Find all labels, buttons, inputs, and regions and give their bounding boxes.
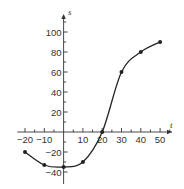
x-tick-label: 40 <box>136 134 147 145</box>
y-tick-label: −20 <box>45 147 61 158</box>
x-tick-label: −10 <box>36 134 52 145</box>
data-point-marker <box>120 70 124 74</box>
data-point-marker <box>158 40 162 44</box>
data-point-marker <box>23 150 27 154</box>
data-point-marker <box>139 50 143 54</box>
x-axis-label: t <box>170 120 173 130</box>
x-tick-label: 50 <box>155 134 166 145</box>
axes <box>17 14 172 184</box>
data-point-marker <box>100 130 104 134</box>
y-tick-label: 40 <box>51 87 62 98</box>
data-point-marker <box>81 160 85 164</box>
y-tick-label: 20 <box>51 107 62 118</box>
x-tick-label: −20 <box>17 134 33 145</box>
y-axis-label: s <box>68 7 72 17</box>
x-tick-label: 30 <box>116 134 127 145</box>
y-tick-label: 100 <box>46 27 62 38</box>
y-tick-label: −40 <box>45 167 61 178</box>
ticks: −20−101020304050−40−2020406080100 <box>17 22 170 178</box>
y-tick-label: 60 <box>51 67 62 78</box>
x-tick-label: 10 <box>78 134 89 145</box>
line-chart: −20−101020304050−40−2020406080100 t s <box>0 0 184 189</box>
data-point-marker <box>62 165 66 169</box>
data-point-marker <box>42 163 46 167</box>
y-axis-arrow-icon <box>61 14 65 19</box>
y-tick-label: 80 <box>51 47 62 58</box>
